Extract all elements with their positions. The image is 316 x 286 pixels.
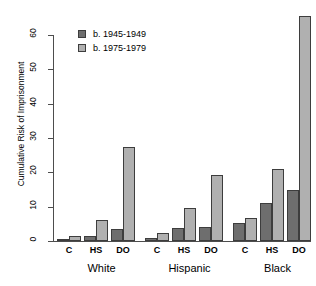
x-axis-tick-label: HS <box>81 245 111 255</box>
bar <box>123 147 135 241</box>
x-axis-tick-label: C <box>230 245 260 255</box>
bar <box>96 220 108 241</box>
x-axis-tick-label: C <box>142 245 172 255</box>
bar <box>199 227 211 241</box>
bar <box>272 169 284 241</box>
y-axis-tick <box>48 69 53 70</box>
y-axis-tick-label: 10 <box>28 198 38 212</box>
x-axis-group-label: White <box>57 262 147 274</box>
y-axis-tick-label: 0 <box>28 232 38 246</box>
legend-item-label: b. 1975-1979 <box>93 43 146 53</box>
x-axis-tick-label: DO <box>108 245 138 255</box>
legend-swatch-icon <box>78 44 86 52</box>
y-axis-tick-label: 50 <box>28 60 38 74</box>
bar <box>157 233 169 241</box>
bar <box>57 239 69 241</box>
x-axis-tick-label: C <box>54 245 84 255</box>
bar-chart: Cumulative Risk of Imprisonment 01020304… <box>0 0 315 286</box>
legend-item-label: b. 1945-1949 <box>93 29 146 39</box>
bar <box>287 190 299 241</box>
bar <box>260 203 272 241</box>
y-axis-tick <box>48 207 53 208</box>
legend-swatch-icon <box>78 30 86 38</box>
x-axis-tick-label: DO <box>284 245 314 255</box>
bar <box>211 175 223 241</box>
y-axis-tick <box>48 172 53 173</box>
y-axis-line <box>53 35 54 242</box>
y-axis-tick <box>48 138 53 139</box>
y-axis-tick <box>48 35 53 36</box>
legend-item: b. 1975-1979 <box>78 41 146 54</box>
bar <box>69 236 81 241</box>
x-axis-tick-label: DO <box>196 245 226 255</box>
y-axis-tick <box>48 104 53 105</box>
bar <box>184 208 196 241</box>
y-axis-tick-label: 30 <box>28 129 38 143</box>
x-axis-tick-label: HS <box>169 245 199 255</box>
bar <box>172 228 184 241</box>
x-axis-tick-label: HS <box>257 245 287 255</box>
bar <box>233 223 245 241</box>
x-axis-group-label: Black <box>233 262 316 274</box>
y-axis-tick-label: 20 <box>28 163 38 177</box>
y-axis-tick-label: 60 <box>28 26 38 40</box>
bar <box>111 229 123 241</box>
bar <box>145 238 157 241</box>
y-axis-title: Cumulative Risk of Imprisonment <box>14 1 28 247</box>
bar <box>84 236 96 241</box>
y-axis-tick-label: 40 <box>28 95 38 109</box>
bar <box>245 218 257 241</box>
x-axis-group-label: Hispanic <box>145 262 235 274</box>
bar <box>299 16 311 241</box>
x-axis-line <box>53 241 311 242</box>
chart-legend: b. 1945-1949b. 1975-1979 <box>78 27 146 55</box>
legend-item: b. 1945-1949 <box>78 27 146 40</box>
